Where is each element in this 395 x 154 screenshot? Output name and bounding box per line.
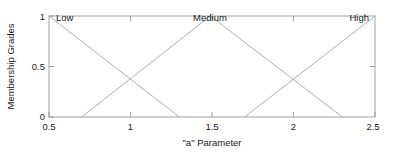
x-axis-ticks — [49, 16, 375, 117]
chart-canvas: 0 0.5 1 0.5 1 1.5 2 2.5 "a" Parameter Me… — [0, 0, 395, 154]
x-tick-label-0point5: 0.5 — [42, 121, 55, 132]
y-tick-label-1: 1 — [40, 11, 45, 22]
x-tick-label-2point5: 2.5 — [366, 121, 379, 132]
y-axis-ticks — [49, 16, 375, 117]
mf-curve-medium — [82, 16, 343, 117]
y-axis-title: Membership Grades — [5, 23, 16, 109]
curve-label-high: High — [349, 12, 369, 23]
membership-function-chart: 0 0.5 1 0.5 1 1.5 2 2.5 "a" Parameter Me… — [0, 0, 395, 154]
mf-curve-low — [49, 16, 179, 117]
x-tick-label-1point5: 1.5 — [205, 121, 218, 132]
x-axis-title: "a" Parameter — [182, 137, 241, 148]
curve-label-medium: Medium — [193, 12, 227, 23]
curve-label-low: Low — [56, 12, 74, 23]
x-tick-label-2: 2 — [291, 121, 296, 132]
mf-curve-high — [245, 16, 375, 117]
x-tick-label-1: 1 — [128, 121, 133, 132]
plot-frame — [49, 16, 375, 117]
y-tick-label-0point5: 0.5 — [32, 61, 45, 72]
